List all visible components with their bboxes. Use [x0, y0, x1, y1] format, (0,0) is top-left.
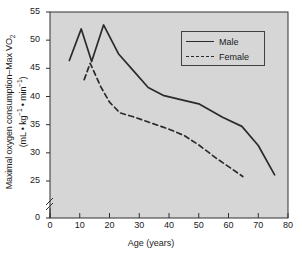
legend-label-female: Female [219, 52, 249, 62]
legend-line-solid-icon [186, 37, 214, 47]
legend-line-dashed-icon [186, 52, 214, 62]
legend-item-female: Female [186, 49, 262, 64]
chart-figure: Maximal oxygen consumption–Max VO2 (mL •… [0, 0, 302, 259]
legend-label-male: Male [219, 37, 239, 47]
legend-item-male: Male [186, 34, 262, 49]
chart-legend: Male Female [181, 31, 265, 66]
